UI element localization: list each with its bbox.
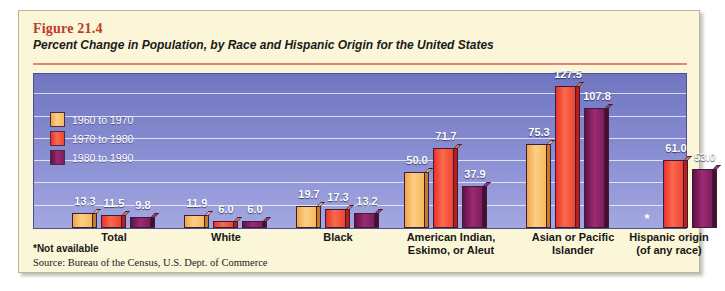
- bar[interactable]: [184, 215, 205, 228]
- bar-side-face: [425, 172, 429, 228]
- bar[interactable]: [433, 148, 454, 228]
- bar-top-face: [263, 217, 271, 221]
- bar-side-face: [375, 213, 379, 228]
- bar-group: 19.717.313.2: [296, 74, 382, 228]
- figure-header: Figure 21.4 Percent Change in Population…: [33, 21, 685, 53]
- bar-top-face: [93, 209, 101, 213]
- category-label: Hispanic origin(of any race): [601, 231, 725, 257]
- bar-value-label: 11.5: [98, 197, 130, 209]
- bar-side-face: [605, 108, 609, 228]
- chart-plot-area: 1960 to 19701970 to 19801980 to 1990 13.…: [33, 73, 687, 229]
- figure-number: Figure 21.4: [33, 21, 685, 36]
- bar-value-label: 71.7: [430, 130, 462, 142]
- bar[interactable]: [692, 169, 713, 228]
- bar-value-label: 6.0: [239, 203, 271, 215]
- legend-swatch-icon: [50, 112, 65, 127]
- bar-side-face: [713, 169, 717, 228]
- figure-footnotes: *Not available Source: Bureau of the Cen…: [33, 243, 267, 269]
- bar-side-face: [576, 86, 580, 228]
- bar-top-face: [122, 211, 130, 215]
- bar-side-face: [317, 206, 321, 228]
- bar-top-face: [151, 213, 159, 217]
- bar-group: 11.96.06.0: [184, 74, 270, 228]
- bar-top-face: [547, 140, 555, 144]
- bar[interactable]: [213, 221, 234, 228]
- bar[interactable]: [584, 108, 605, 228]
- bar-side-face: [483, 186, 487, 228]
- bar-side-face: [263, 221, 267, 228]
- bar-top-face: [713, 165, 721, 169]
- legend-item-label: 1960 to 1970: [72, 114, 133, 126]
- bar[interactable]: [663, 160, 684, 228]
- legend-swatch-icon: [50, 131, 65, 146]
- bar-value-label: 75.3: [523, 126, 555, 138]
- bar-value-label: 13.3: [69, 195, 101, 207]
- bar-value-label: 11.9: [181, 197, 213, 209]
- bar-side-face: [205, 215, 209, 228]
- bar[interactable]: [462, 186, 483, 228]
- legend-item-label: 1970 to 1980: [72, 133, 133, 145]
- title-divider: [33, 63, 687, 65]
- category-label-line: Hispanic origin: [601, 231, 725, 244]
- bar[interactable]: [242, 221, 263, 228]
- bar-side-face: [346, 209, 350, 228]
- bar-top-face: [375, 209, 383, 213]
- bar-side-face: [684, 160, 688, 228]
- bar-value-label: 13.2: [351, 195, 383, 207]
- figure-title: Percent Change in Population, by Race an…: [33, 38, 685, 53]
- footnote-not-available: *Not available: [33, 243, 267, 255]
- footnote-source: Source: Bureau of the Census, U.S. Dept.…: [33, 256, 267, 269]
- legend-item-0[interactable]: 1960 to 1970: [50, 110, 133, 129]
- bar-side-face: [151, 217, 155, 228]
- bar-group: *61.053.0: [634, 74, 706, 228]
- bar-value-label: 17.3: [322, 191, 354, 203]
- legend-item-2[interactable]: 1980 to 1990: [50, 148, 133, 167]
- bar-top-face: [454, 144, 462, 148]
- bar[interactable]: [526, 144, 547, 228]
- bar-top-face: [576, 82, 584, 86]
- bar[interactable]: [325, 209, 346, 228]
- bar-top-face: [425, 168, 433, 172]
- chart-legend: 1960 to 19701970 to 19801980 to 1990: [50, 110, 133, 167]
- bar-not-available-marker: *: [631, 211, 663, 226]
- bar-group: 50.071.737.9: [404, 74, 500, 228]
- bar-value-label: 50.0: [401, 154, 433, 166]
- bar[interactable]: [101, 215, 122, 228]
- figure-panel: Figure 21.4 Percent Change in Population…: [18, 10, 700, 273]
- bar-value-label: 19.7: [293, 188, 325, 200]
- bar-value-label: 107.8: [581, 90, 613, 102]
- bar-value-label: 53.0: [689, 151, 721, 163]
- bar-value-label: 127.5: [552, 68, 584, 80]
- bar-value-label: 37.9: [459, 168, 491, 180]
- bar[interactable]: [555, 86, 576, 228]
- legend-swatch-icon: [50, 150, 65, 165]
- bar[interactable]: [404, 172, 425, 228]
- bar-side-face: [454, 148, 458, 228]
- bar-side-face: [547, 144, 551, 228]
- bar-side-face: [93, 213, 97, 228]
- bar-value-label: 61.0: [660, 142, 692, 154]
- bar-value-label: 9.8: [127, 199, 159, 211]
- bar-top-face: [234, 217, 242, 221]
- bar-top-face: [605, 104, 613, 108]
- category-label-line: (of any race): [601, 244, 725, 257]
- bar-top-face: [483, 182, 491, 186]
- bar-value-label: 6.0: [210, 203, 242, 215]
- legend-item-1[interactable]: 1970 to 1980: [50, 129, 133, 148]
- bar[interactable]: [130, 217, 151, 228]
- bar[interactable]: [72, 213, 93, 228]
- bar-side-face: [122, 215, 126, 228]
- bar-side-face: [234, 221, 238, 228]
- legend-item-label: 1980 to 1990: [72, 152, 133, 164]
- bar[interactable]: [296, 206, 317, 228]
- bar[interactable]: [354, 213, 375, 228]
- bar-group: 75.3127.5107.8: [526, 74, 622, 228]
